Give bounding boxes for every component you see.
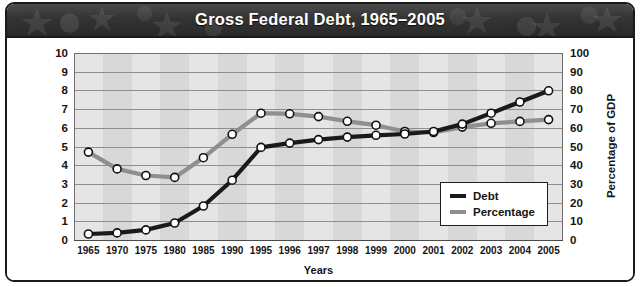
legend-label-debt: Debt xyxy=(473,190,499,202)
data-point-marker xyxy=(458,120,466,128)
x-tick-label: 2004 xyxy=(509,245,531,256)
chart-title: Gross Federal Debt, 1965–2005 xyxy=(7,4,633,36)
data-point-marker xyxy=(142,172,150,180)
y-tick-label-right: 60 xyxy=(570,122,583,134)
data-point-marker xyxy=(430,128,438,136)
y-tick-label-left: 5 xyxy=(62,141,68,153)
data-point-marker xyxy=(487,109,495,117)
data-point-marker xyxy=(171,173,179,181)
y-tick-label-right: 90 xyxy=(570,66,583,78)
gridline xyxy=(74,240,563,241)
x-tick-label: 1965 xyxy=(77,245,99,256)
y-tick-label-right: 80 xyxy=(570,84,583,96)
x-tick-label: 1996 xyxy=(279,245,301,256)
legend-swatch-debt xyxy=(450,194,466,198)
y-tick-label-left: 2 xyxy=(62,197,68,209)
data-point-marker xyxy=(199,154,207,162)
y-tick-label-right: 40 xyxy=(570,159,583,171)
legend: Debt Percentage xyxy=(440,182,548,226)
data-point-marker xyxy=(516,98,524,106)
data-point-marker xyxy=(171,219,179,227)
chart-figure: Gross Federal Debt, 1965–2005 Debt (in t… xyxy=(0,0,640,287)
data-point-marker xyxy=(315,136,323,144)
y-tick-label-right: 10 xyxy=(570,215,583,227)
y-tick-label-left: 3 xyxy=(62,178,68,190)
chart-frame: Gross Federal Debt, 1965–2005 Debt (in t… xyxy=(5,2,635,282)
data-point-marker xyxy=(286,139,294,147)
y-tick-label-right: 70 xyxy=(570,103,583,115)
data-point-marker xyxy=(142,226,150,234)
data-point-marker xyxy=(257,109,265,117)
data-point-marker xyxy=(545,116,553,124)
legend-item-debt: Debt xyxy=(450,188,535,204)
data-point-marker xyxy=(228,176,236,184)
y-tick-label-right: 50 xyxy=(570,141,583,153)
x-tick-label: 1980 xyxy=(164,245,186,256)
data-point-marker xyxy=(401,130,409,138)
y-axis-label-right: Percentage of GDP xyxy=(605,94,617,198)
x-tick-label: 2003 xyxy=(480,245,502,256)
y-tick-label-left: 8 xyxy=(62,84,68,96)
data-point-marker xyxy=(228,130,236,138)
x-tick-label: 2005 xyxy=(537,245,559,256)
x-tick-label: 1975 xyxy=(135,245,157,256)
x-tick-label: 1998 xyxy=(336,245,358,256)
y-tick-label-right: 20 xyxy=(570,197,583,209)
x-tick-label: 2001 xyxy=(422,245,444,256)
data-point-marker xyxy=(257,143,265,151)
data-point-marker xyxy=(113,165,121,173)
x-tick-label: 1999 xyxy=(365,245,387,256)
y-tick-label-left: 10 xyxy=(55,47,68,59)
y-tick-label-left: 1 xyxy=(62,215,68,227)
data-point-marker xyxy=(545,87,553,95)
legend-item-percentage: Percentage xyxy=(450,204,535,220)
data-point-marker xyxy=(372,121,380,129)
data-point-marker xyxy=(315,113,323,121)
legend-label-percentage: Percentage xyxy=(473,206,535,218)
series-line-percentage xyxy=(88,113,548,177)
data-point-marker xyxy=(84,230,92,238)
data-point-marker xyxy=(516,117,524,125)
data-point-marker xyxy=(113,229,121,237)
y-tick-label-right: 30 xyxy=(570,178,583,190)
x-tick-label: 1970 xyxy=(106,245,128,256)
data-point-marker xyxy=(286,110,294,118)
x-tick-label: 1985 xyxy=(192,245,214,256)
chart-body: Debt (in trillions of dollars) Percentag… xyxy=(7,38,633,282)
y-tick-label-left: 7 xyxy=(62,103,68,115)
data-point-marker xyxy=(343,117,351,125)
legend-swatch-percentage xyxy=(450,210,466,214)
x-tick-label: 1990 xyxy=(221,245,243,256)
data-point-marker xyxy=(487,119,495,127)
data-point-marker xyxy=(199,202,207,210)
x-tick-label: 1997 xyxy=(307,245,329,256)
y-tick-label-left: 0 xyxy=(62,234,68,246)
data-point-marker xyxy=(343,133,351,141)
data-point-marker xyxy=(372,131,380,139)
y-tick-label-right: 100 xyxy=(570,47,589,59)
y-tick-label-left: 4 xyxy=(62,159,68,171)
title-banner: Gross Federal Debt, 1965–2005 xyxy=(7,4,633,38)
x-tick-label: 1995 xyxy=(250,245,272,256)
x-axis-label: Years xyxy=(74,264,563,276)
x-tick-label: 2002 xyxy=(451,245,473,256)
data-point-marker xyxy=(84,148,92,156)
y-tick-label-left: 9 xyxy=(62,66,68,78)
y-tick-label-left: 6 xyxy=(62,122,68,134)
y-tick-label-right: 0 xyxy=(570,234,576,246)
x-tick-label: 2000 xyxy=(394,245,416,256)
